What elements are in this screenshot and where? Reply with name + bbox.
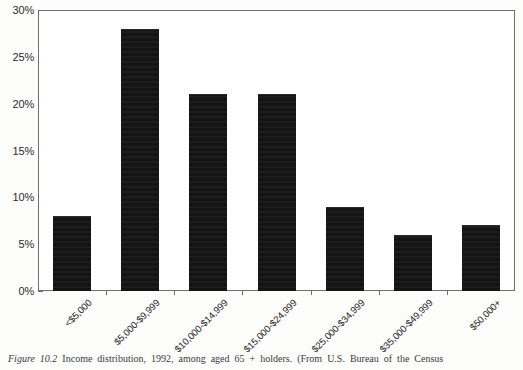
x-axis-labels: <$5,000$5,000-$9,999$10,000-$14,999$15,0… <box>0 291 523 351</box>
x-tick-label-text: $50,000+ <box>467 297 502 332</box>
x-tick-label-text: $25,000-$34,999 <box>309 297 367 355</box>
x-tick-label-text: <$5,000 <box>62 297 94 329</box>
x-tick-label-text: $10,000-$14,999 <box>173 297 231 355</box>
bar <box>121 29 159 291</box>
bar-series <box>38 10 515 291</box>
y-tick-label: 10% <box>13 191 34 203</box>
figure-caption: Figure 10.2 Income distribution, 1992, a… <box>8 352 516 368</box>
bar <box>326 207 364 291</box>
figure-container: 0%5%10%15%20%25%30% <$5,000$5,000-$9,999… <box>0 0 523 370</box>
y-tick-label: 30% <box>13 4 34 16</box>
y-tick-label: 25% <box>13 51 34 63</box>
y-axis-labels: 0%5%10%15%20%25%30% <box>0 10 34 291</box>
x-tick-label-text: $5,000-$9,999 <box>112 297 162 347</box>
y-tick-label: 15% <box>13 145 34 157</box>
y-tick-label: 20% <box>13 98 34 110</box>
caption-text: Income distribution, 1992, among aged 65… <box>62 353 443 364</box>
x-tick-label-text: $15,000-$24,999 <box>241 297 299 355</box>
bar <box>53 216 91 291</box>
y-tick-label: 5% <box>19 238 35 250</box>
caption-label: Figure 10.2 <box>8 353 57 364</box>
x-tick-label-text: $35,000-$49,999 <box>377 297 435 355</box>
